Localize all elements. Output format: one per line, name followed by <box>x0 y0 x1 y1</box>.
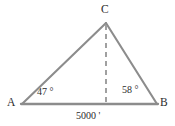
triangle-graphic <box>0 0 175 126</box>
vertex-label-c: C <box>101 4 109 15</box>
side-label-ab: 5000 ' <box>76 110 100 121</box>
angle-label-a: 47 ° <box>37 86 54 97</box>
vertex-label-a: A <box>7 97 15 108</box>
triangle-side-ac <box>22 23 106 104</box>
angle-label-b: 58 ° <box>122 84 139 95</box>
vertex-label-b: B <box>160 97 168 108</box>
triangle-diagram: A B C 47 ° 58 ° 5000 ' <box>0 0 175 126</box>
